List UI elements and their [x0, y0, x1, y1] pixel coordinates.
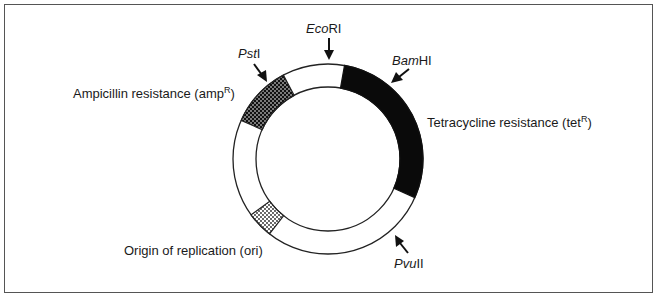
amp-label-close: ) [231, 86, 235, 101]
pvuii-arrow-icon [395, 235, 408, 253]
bamhi-arrow-icon [391, 69, 409, 83]
pvuii-label-italic: Pvu [394, 256, 416, 271]
ecori-arrow-icon [324, 38, 334, 60]
bamhi-label: BamHI [392, 53, 432, 68]
plasmid-map [0, 0, 660, 303]
pvuii-label: PvuII [394, 256, 424, 271]
psti-arrow-icon [254, 64, 267, 82]
psti-label-roman: I [257, 46, 261, 61]
ecori-label-italic: Eco [306, 21, 328, 36]
tet-label-text: Tetracycline resistance (tet [427, 115, 581, 130]
psti-label: PstI [238, 46, 260, 61]
ampicillin-resistance-label: Ampicillin resistance (ampR) [73, 86, 235, 101]
ecori-label: EcoRI [306, 21, 341, 36]
pvuii-label-roman: II [416, 256, 423, 271]
psti-label-italic: Pst [238, 46, 257, 61]
tet-label-close: ) [587, 115, 591, 130]
amp-label-text: Ampicillin resistance (amp [73, 86, 224, 101]
tetracycline-resistance-label: Tetracycline resistance (tetR) [427, 115, 592, 130]
ori-label-text: Origin of replication (ori) [124, 243, 263, 258]
bamhi-label-roman: HI [419, 53, 432, 68]
origin-of-replication-label: Origin of replication (ori) [124, 243, 263, 258]
ecori-label-roman: RI [328, 21, 341, 36]
bamhi-label-italic: Bam [392, 53, 419, 68]
